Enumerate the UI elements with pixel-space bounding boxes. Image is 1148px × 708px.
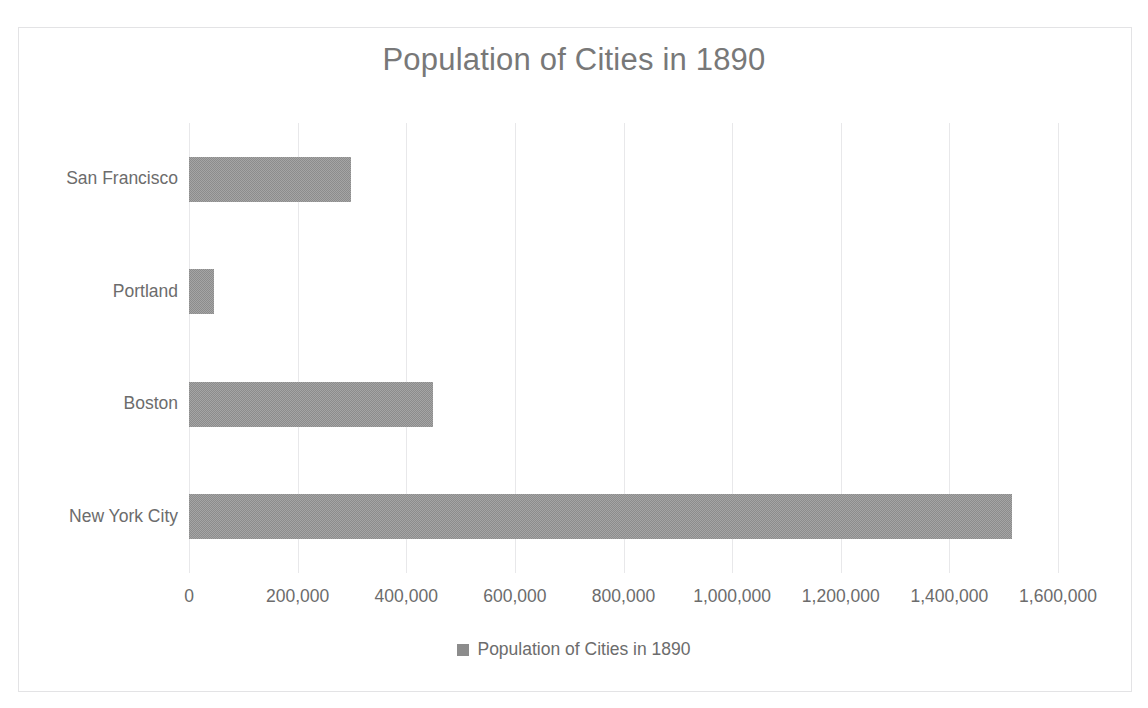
- x-tick-label: 0: [184, 588, 194, 606]
- category-label: San Francisco: [66, 170, 178, 188]
- x-tick-label: 600,000: [483, 588, 546, 606]
- legend-label: Population of Cities in 1890: [477, 641, 690, 659]
- bar[interactable]: [189, 494, 1012, 539]
- x-tick-label: 1,400,000: [910, 588, 988, 606]
- bar[interactable]: [189, 382, 433, 427]
- gridline: [1058, 123, 1059, 573]
- plot-area: [189, 123, 1058, 573]
- x-tick-label: 800,000: [592, 588, 655, 606]
- x-tick-label: 200,000: [266, 588, 329, 606]
- category-label: Portland: [113, 283, 178, 301]
- chart-page: Population of Cities in 1890 New York Ci…: [0, 0, 1148, 708]
- category-label: Boston: [124, 395, 178, 413]
- x-tick-label: 1,600,000: [1019, 588, 1097, 606]
- legend-square-icon: [457, 644, 469, 656]
- x-tick-label: 400,000: [375, 588, 438, 606]
- category-label: New York City: [69, 508, 178, 526]
- bar[interactable]: [189, 269, 214, 314]
- chart-legend: Population of Cities in 1890: [0, 641, 1148, 659]
- x-tick-label: 1,000,000: [693, 588, 771, 606]
- category-axis-labels: New York CityBostonPortlandSan Francisco: [0, 0, 178, 708]
- bar[interactable]: [189, 157, 351, 202]
- x-tick-label: 1,200,000: [802, 588, 880, 606]
